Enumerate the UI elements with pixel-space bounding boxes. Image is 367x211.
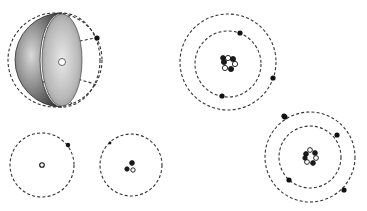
electron-dot: [334, 132, 339, 137]
electron-dot: [286, 177, 291, 182]
atom-small-nucleus: [100, 134, 162, 196]
nucleus-cluster: [125, 161, 135, 173]
electron-dot: [109, 142, 112, 145]
nucleus-cluster: [303, 148, 319, 166]
atom-single-electron: [10, 133, 74, 197]
electron-dot: [341, 187, 346, 192]
electron-dot: [270, 75, 275, 80]
atomic-models-diagram: [0, 0, 367, 211]
electron-dot: [281, 113, 286, 118]
sphere-cutaway-model: [8, 13, 102, 107]
atom-lower-right: [265, 112, 355, 202]
atom-upper-right: [180, 14, 288, 120]
electron-dot: [94, 35, 99, 40]
nucleus-cluster: [221, 55, 238, 71]
electron-dot: [66, 143, 70, 147]
inner-orbit: [195, 31, 261, 97]
nucleus: [40, 163, 45, 168]
outer-orbit: [180, 14, 276, 110]
electron-dot: [219, 93, 224, 98]
sphere-center-nucleus: [59, 59, 66, 66]
electron-dot: [237, 30, 242, 35]
